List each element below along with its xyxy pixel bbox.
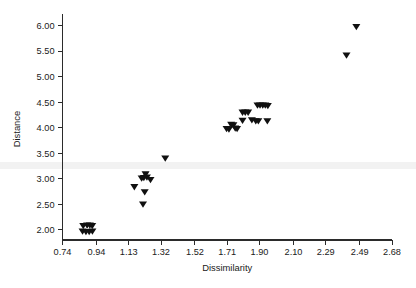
x-tick-label: 2.49 [351,247,369,257]
x-axis-ticks: 0.740.941.131.321.521.711.902.102.292.49… [54,240,401,257]
x-tick-label: 2.10 [285,247,303,257]
data-point-marker [139,201,147,207]
x-tick-label: 2.68 [383,247,401,257]
y-axis-title: Distance [11,111,22,147]
y-tick-label: 2.50 [37,200,55,210]
data-point-marker [342,52,350,58]
y-axis-ticks: 2.002.503.003.504.004.505.005.506.00 [37,21,63,235]
x-tick-label: 1.13 [120,247,138,257]
y-tick-label: 2.00 [37,225,55,235]
data-point-marker [263,118,271,124]
x-tick-label: 1.32 [152,247,170,257]
x-tick-label: 1.71 [218,247,236,257]
data-point-marker [161,156,169,162]
x-tick-label: 0.74 [54,247,72,257]
y-tick-label: 5.50 [37,46,55,56]
data-point-marker [130,184,138,190]
y-tick-label: 5.00 [37,72,55,82]
x-tick-label: 1.90 [251,247,269,257]
data-point-marker [352,24,360,30]
data-point-marker [141,189,149,195]
y-tick-label: 4.00 [37,123,55,133]
y-tick-label: 3.00 [37,174,55,184]
x-tick-label: 0.94 [88,247,106,257]
data-point-marker [146,177,154,183]
x-tick-label: 2.29 [317,247,335,257]
y-tick-label: 6.00 [37,21,55,31]
scatter-plot-figure: 2.002.503.003.504.004.505.005.506.00 0.7… [0,0,416,288]
x-axis-title: Dissimilarity [202,262,252,273]
x-tick-label: 1.52 [186,247,204,257]
plot-canvas: 2.002.503.003.504.004.505.005.506.00 0.7… [0,0,416,288]
y-tick-label: 4.50 [37,98,55,108]
data-point-marker [239,118,247,124]
y-tick-label: 3.50 [37,149,55,159]
data-markers [79,24,361,235]
